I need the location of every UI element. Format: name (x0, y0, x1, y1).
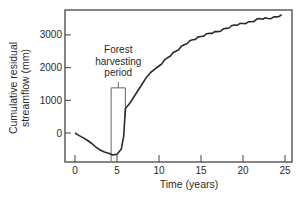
x-tick-label: 0 (72, 165, 78, 176)
harvesting-label-line: period (104, 67, 132, 78)
y-axis-title-line1: Cumulative residual (7, 42, 19, 134)
x-axis-title: Time (years) (160, 178, 219, 190)
harvesting-bracket (111, 88, 125, 161)
y-tick-label: 0 (56, 128, 62, 139)
chart-canvas: 0510152025 0100020003000 Forestharvestin… (0, 0, 308, 198)
x-tick-label: 15 (195, 165, 207, 176)
x-axis-ticks: 0510152025 (72, 155, 291, 176)
harvesting-label-line: Forest (104, 44, 133, 55)
y-axis-title: Cumulative residual streamflow (mm) (7, 42, 31, 134)
x-tick-label: 10 (153, 165, 165, 176)
harvesting-label-line: harvesting (95, 56, 141, 67)
plot-frame (65, 10, 292, 162)
x-tick-label: 5 (114, 165, 120, 176)
y-axis-ticks: 0100020003000 (40, 29, 71, 138)
streamflow-line (75, 15, 282, 155)
y-axis-title-line2: streamflow (mm) (19, 49, 31, 127)
y-tick-label: 2000 (40, 62, 63, 73)
harvesting-period-annotation: Forestharvestingperiod (95, 44, 141, 161)
x-tick-label: 25 (279, 165, 291, 176)
x-tick-label: 20 (237, 165, 249, 176)
y-tick-label: 3000 (40, 29, 63, 40)
y-tick-label: 1000 (40, 95, 63, 106)
